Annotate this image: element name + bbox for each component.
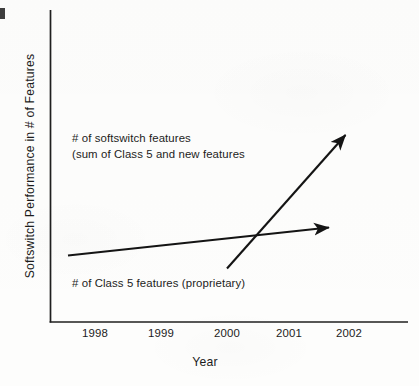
x-tick-label-1999: 1999 xyxy=(148,327,174,339)
chart-figure: # of softswitch features (sum of Class 5… xyxy=(0,0,419,386)
annotation-softswitch-line-1: # of softswitch features xyxy=(72,131,245,147)
annotation-softswitch-line-2: (sum of Class 5 and new features xyxy=(72,147,245,163)
annotation-class-5-features: # of Class 5 features (proprietary) xyxy=(72,276,245,292)
x-axis-title: Year xyxy=(192,355,217,369)
x-tick-label-2000: 2000 xyxy=(214,327,240,339)
x-tick-label-2001: 2001 xyxy=(276,327,302,339)
x-tick-label-1998: 1998 xyxy=(82,327,108,339)
y-axis-title: Softswitch Performance in # of Features xyxy=(23,54,37,279)
annotation-softswitch-features: # of softswitch features (sum of Class 5… xyxy=(72,131,245,162)
series-line-class-5-features xyxy=(68,228,329,256)
x-tick-label-2002: 2002 xyxy=(336,327,362,339)
